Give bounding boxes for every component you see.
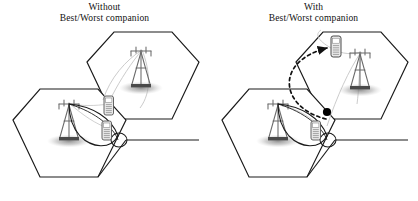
panel-left-drawing bbox=[0, 0, 209, 201]
tower-base-lower bbox=[268, 137, 288, 140]
tower-base-lower bbox=[59, 137, 79, 140]
tower-base-upper bbox=[350, 86, 370, 89]
panel-with-companion: With Best/Worst companion bbox=[209, 0, 418, 201]
tower-base-upper bbox=[131, 84, 151, 87]
panel-right-drawing bbox=[209, 0, 418, 201]
mobile-phone-icon-upper bbox=[331, 36, 341, 57]
black-dot-icon bbox=[323, 108, 331, 116]
mobile-phone-icon-lower bbox=[311, 121, 321, 140]
mobile-phone-icon-upper bbox=[104, 96, 114, 115]
panel-without-companion: Without Best/Worst companion bbox=[0, 0, 209, 201]
mobile-phone-icon-lower bbox=[102, 121, 112, 140]
figure-root: Without Best/Worst companion bbox=[0, 0, 418, 201]
